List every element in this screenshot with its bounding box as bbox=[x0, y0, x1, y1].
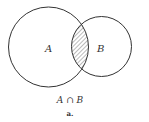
set-b-label: B bbox=[96, 43, 104, 54]
expression-label: A ∩ B bbox=[56, 95, 84, 105]
caption: a. bbox=[67, 109, 74, 118]
venn-diagram: A B A ∩ B a. bbox=[0, 0, 149, 122]
set-a-label: A bbox=[44, 43, 52, 54]
